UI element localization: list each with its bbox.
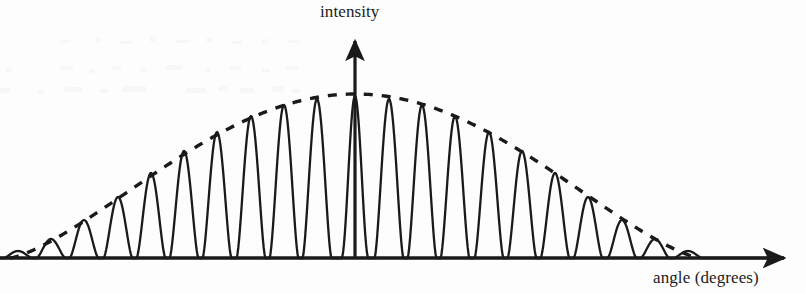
x-axis-label: angle (degrees) bbox=[653, 268, 759, 288]
diffraction-figure: intensity angle (degrees) bbox=[0, 0, 806, 294]
diffraction-plot-svg bbox=[0, 0, 806, 294]
interference-pattern-curve bbox=[0, 96, 784, 258]
y-axis-label: intensity bbox=[320, 2, 379, 22]
